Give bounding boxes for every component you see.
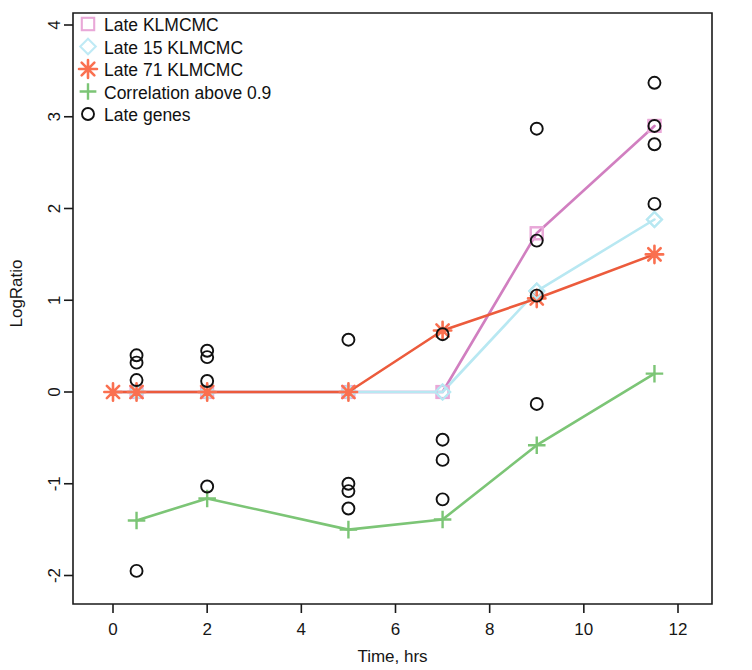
x-tick-label: 12 xyxy=(669,620,688,639)
x-tick-label: 6 xyxy=(391,620,400,639)
series-line xyxy=(113,220,654,392)
data-point-marker xyxy=(646,246,663,263)
legend-marker xyxy=(80,39,96,55)
late-gene-point xyxy=(648,138,660,150)
chart-legend: Late KLMCMCLate 15 KLMCMCLate 71 KLMCMCC… xyxy=(79,15,271,125)
series-line xyxy=(113,254,654,392)
data-series xyxy=(104,120,663,538)
scatter-points xyxy=(131,77,661,577)
legend-label: Late genes xyxy=(104,105,191,125)
data-point-marker xyxy=(198,383,215,400)
series-joint-markers xyxy=(435,212,662,399)
late-gene-point xyxy=(437,454,449,466)
x-tick-label: 8 xyxy=(485,620,494,639)
y-tick-label: -2 xyxy=(45,568,64,583)
late-gene-point xyxy=(437,493,449,505)
legend-label: Late 71 KLMCMC xyxy=(104,60,243,80)
late-gene-point xyxy=(648,198,660,210)
data-point-marker xyxy=(646,365,664,383)
data-point-marker xyxy=(128,512,146,530)
series-1 xyxy=(113,212,662,399)
x-tick-label: 2 xyxy=(202,620,211,639)
y-tick-label: 3 xyxy=(45,112,64,121)
late-gene-point xyxy=(437,434,449,446)
series-2 xyxy=(104,246,663,401)
data-point-marker xyxy=(340,521,358,539)
legend-label: Late KLMCMC xyxy=(104,15,219,35)
late-gene-point xyxy=(131,565,143,577)
data-point-marker xyxy=(104,383,121,400)
axis-titles: Time, hrsLogRatio xyxy=(7,259,428,666)
y-tick-label: 2 xyxy=(45,204,64,213)
late-gene-point xyxy=(342,485,354,497)
late-gene-point xyxy=(648,77,660,89)
legend-marker xyxy=(82,108,94,120)
series-line xyxy=(137,374,655,530)
series-line xyxy=(113,126,654,392)
x-tick-label: 0 xyxy=(108,620,117,639)
x-tick-label: 4 xyxy=(297,620,306,639)
late-gene-point xyxy=(131,357,143,369)
chart-canvas: 024681012-2-101234 Late KLMCMCLate 15 KL… xyxy=(0,0,752,670)
y-tick-label: 1 xyxy=(45,296,64,305)
late-gene-point xyxy=(342,503,354,515)
legend-item-3: Correlation above 0.9 xyxy=(80,83,272,103)
legend-item-0: Late KLMCMC xyxy=(82,15,219,35)
legend-marker xyxy=(80,83,97,100)
x-axis-title: Time, hrs xyxy=(357,647,427,666)
chart-figure: 024681012-2-101234 Late KLMCMCLate 15 KL… xyxy=(0,0,752,670)
legend-label: Correlation above 0.9 xyxy=(104,83,271,103)
legend-item-4: Late genes xyxy=(82,105,191,125)
legend-item-2: Late 71 KLMCMC xyxy=(79,60,243,80)
late-gene-point xyxy=(531,398,543,410)
y-tick-label: -1 xyxy=(45,476,64,491)
y-tick-label: 4 xyxy=(45,20,64,29)
legend-item-1: Late 15 KLMCMC xyxy=(80,38,243,58)
series-0 xyxy=(113,120,660,398)
y-tick-label: 0 xyxy=(45,387,64,396)
late-gene-point xyxy=(531,123,543,135)
x-tick-label: 10 xyxy=(574,620,593,639)
legend-label: Late 15 KLMCMC xyxy=(104,38,243,58)
series-joint-markers xyxy=(437,120,661,398)
data-point-marker xyxy=(340,383,357,400)
late-gene-point xyxy=(342,334,354,346)
y-axis-title: LogRatio xyxy=(7,259,26,327)
legend-marker xyxy=(79,60,97,78)
legend-marker xyxy=(82,18,94,30)
